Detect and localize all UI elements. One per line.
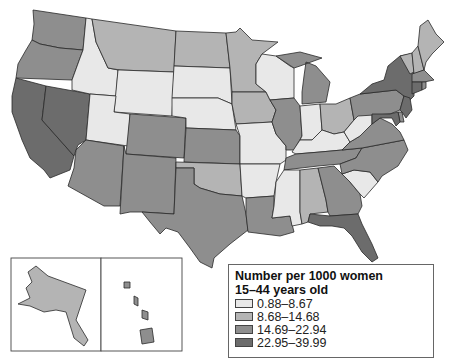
legend-item-class-4: 22.95–39.99 bbox=[235, 336, 427, 349]
legend-label-4: 22.95–39.99 bbox=[257, 336, 327, 350]
legend-item-class-2: 8.68–14.68 bbox=[235, 310, 427, 323]
state-north-dakota bbox=[174, 31, 230, 68]
state-rhode-island bbox=[422, 82, 426, 90]
state-maine bbox=[418, 20, 444, 70]
state-colorado bbox=[126, 114, 186, 158]
state-connecticut bbox=[412, 82, 422, 94]
state-arizona bbox=[68, 140, 124, 206]
state-arkansas bbox=[240, 164, 280, 198]
legend-item-class-3: 14.69–22.94 bbox=[235, 323, 427, 336]
legend-label-1: 0.88–8.67 bbox=[257, 297, 313, 311]
legend-label-2: 8.68–14.68 bbox=[257, 310, 320, 324]
legend-title-line2: 15–44 years old bbox=[235, 283, 427, 297]
state-florida bbox=[308, 214, 378, 262]
legend-title-line1: Number per 1000 women bbox=[235, 269, 427, 283]
map-legend: Number per 1000 women 15–44 years old 0.… bbox=[228, 264, 434, 358]
legend-swatch-1 bbox=[235, 299, 253, 308]
legend-swatch-4 bbox=[235, 338, 253, 347]
legend-item-class-1: 0.88–8.67 bbox=[235, 297, 427, 310]
legend-swatch-3 bbox=[235, 325, 253, 334]
state-wyoming bbox=[114, 70, 174, 116]
legend-label-3: 14.69–22.94 bbox=[257, 323, 327, 337]
state-kansas bbox=[184, 128, 240, 164]
legend-swatch-2 bbox=[235, 312, 253, 321]
